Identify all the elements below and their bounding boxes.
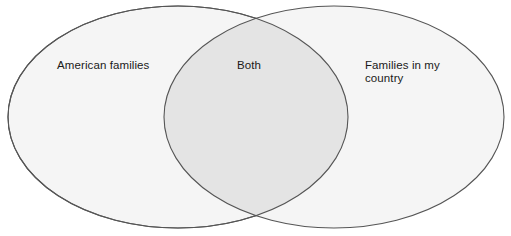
venn-diagram-canvas (0, 0, 511, 236)
set-label-right: Families in my country (365, 59, 440, 84)
intersection-label-both: Both (237, 59, 261, 72)
venn-diagram: American families Both Families in my co… (0, 0, 511, 236)
set-label-left: American families (57, 59, 149, 72)
